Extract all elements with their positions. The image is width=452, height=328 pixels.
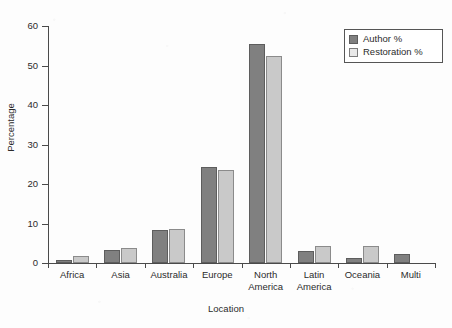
x-tick: [48, 263, 49, 268]
x-tick-label: Multi: [381, 269, 441, 281]
y-tick-label: 0: [14, 258, 38, 268]
author-swatch-icon: [349, 35, 358, 44]
x-tick: [242, 263, 243, 268]
x-tick: [435, 263, 436, 268]
bar-restoration: [266, 56, 282, 263]
legend-label-author: Author %: [363, 34, 402, 44]
x-tick: [193, 263, 194, 268]
x-axis-title: Location: [0, 303, 452, 314]
bar-author: [298, 251, 314, 263]
restoration-swatch-icon: [349, 48, 358, 57]
x-tick: [290, 263, 291, 268]
bar-restoration: [73, 256, 89, 263]
y-tick-label: 60: [14, 21, 38, 31]
bar-author: [152, 230, 168, 263]
bar-author: [56, 260, 72, 263]
bar-restoration: [363, 246, 379, 263]
bar-restoration: [218, 170, 234, 263]
bar-author: [346, 258, 362, 263]
bar-restoration: [121, 248, 137, 263]
y-tick-label: 10: [14, 219, 38, 229]
y-tick-label: 50: [14, 61, 38, 71]
bar-restoration: [169, 229, 185, 263]
bar-restoration: [315, 246, 331, 263]
y-tick-label: 20: [14, 179, 38, 189]
y-tick-label: 30: [14, 140, 38, 150]
x-tick: [145, 263, 146, 268]
bar-author: [249, 44, 265, 263]
x-tick: [96, 263, 97, 268]
y-tick-label: 40: [14, 100, 38, 110]
legend-item-author: Author %: [349, 33, 438, 45]
x-tick: [387, 263, 388, 268]
bar-author: [104, 250, 120, 263]
chart-figure: 0102030405060 Percentage Location Africa…: [0, 0, 452, 328]
x-tick: [338, 263, 339, 268]
chart-legend: Author % Restoration %: [344, 29, 443, 63]
bar-author: [394, 254, 410, 263]
legend-item-restoration: Restoration %: [349, 46, 438, 58]
bar-author: [201, 167, 217, 263]
y-axis-title: Percentage: [5, 103, 16, 152]
legend-label-restoration: Restoration %: [363, 47, 423, 57]
